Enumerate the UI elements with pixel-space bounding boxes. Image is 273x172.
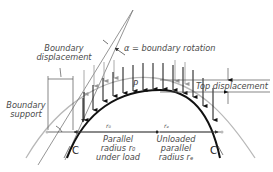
- c-right-label: C: [210, 145, 217, 156]
- unloaded-radius-label: Unloaded parallel radius rₑ: [146, 135, 206, 162]
- load-label: P: [133, 80, 138, 89]
- load-arrows: [83, 63, 213, 122]
- loaded-radius-label: Parallel radius r₀ under load: [88, 135, 148, 162]
- boundary-displacement-line2: displacement: [34, 53, 94, 62]
- top-displacement-label: Top displacement: [196, 82, 268, 91]
- r0-label: r₀: [106, 122, 111, 129]
- boundary-support-label: Boundary support: [2, 101, 50, 119]
- c-left-label: C: [72, 145, 79, 156]
- boundary-support-line2: support: [2, 110, 50, 119]
- radius-dimension: [46, 131, 224, 134]
- alpha-label: α = boundary rotation: [124, 44, 215, 53]
- unloaded-radius-line3: radius rₑ: [146, 153, 206, 162]
- boundary-displacement-label: Boundary displacement: [34, 44, 94, 62]
- boundary-displacement-dimension: [48, 68, 73, 130]
- loaded-radius-line3: under load: [88, 153, 148, 162]
- re-label: rₑ: [164, 122, 169, 129]
